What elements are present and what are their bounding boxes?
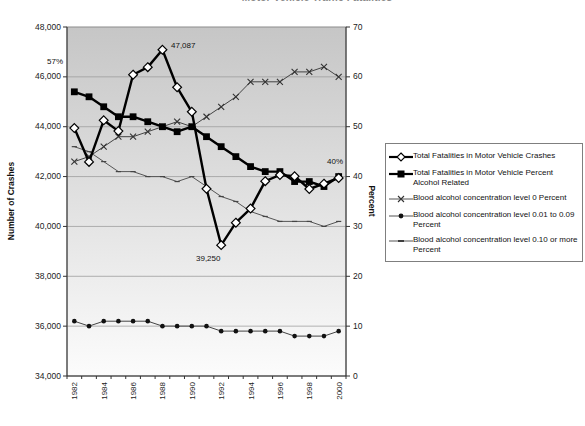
legend: Total Fatalities in Motor Vehicle Crashe… <box>385 143 583 262</box>
legend-item: Blood alcohol concentration level 0.01 t… <box>389 210 578 229</box>
svg-text:36,000: 36,000 <box>35 321 61 331</box>
point-label: 57% <box>47 57 63 66</box>
svg-text:1992: 1992 <box>217 381 226 399</box>
svg-text:40,000: 40,000 <box>35 221 61 231</box>
legend-marker-dash-icon <box>389 236 413 246</box>
svg-text:30: 30 <box>353 221 363 231</box>
legend-label: Total Fatalities in Motor Vehicle Crashe… <box>413 151 555 161</box>
legend-label: Total Fatalities in Motor Vehicle Percen… <box>413 168 578 187</box>
clipped-title-text: Motor Vehicle Traffic Fatalities <box>197 0 437 3</box>
svg-text:1994: 1994 <box>247 381 256 399</box>
svg-text:44,000: 44,000 <box>35 121 61 131</box>
legend-item: Total Fatalities in Motor Vehicle Crashe… <box>389 151 578 162</box>
svg-text:40: 40 <box>353 171 363 181</box>
legend-label: Blood alcohol concentration level 0.01 t… <box>413 210 578 229</box>
point-label: 47,087 <box>171 41 196 50</box>
svg-text:0: 0 <box>353 371 358 381</box>
legend-marker-square-icon <box>389 169 413 179</box>
legend-label: Blood alcohol concentration level 0.10 o… <box>413 235 578 254</box>
legend-marker-circle-icon <box>389 211 413 221</box>
plot-area <box>67 27 346 376</box>
svg-text:1996: 1996 <box>276 381 285 399</box>
legend-label: Blood alcohol concentration level 0 Perc… <box>413 193 566 203</box>
clipped-title: Motor Vehicle Traffic Fatalities <box>197 0 437 4</box>
svg-text:20: 20 <box>353 271 363 281</box>
chart-canvas: Motor Vehicle Traffic Fatalities 48,0004… <box>0 0 585 426</box>
legend-item: Total Fatalities in Motor Vehicle Percen… <box>389 168 578 187</box>
svg-text:34,000: 34,000 <box>35 371 61 381</box>
svg-text:48,000: 48,000 <box>35 22 61 32</box>
svg-text:42,000: 42,000 <box>35 171 61 181</box>
svg-text:1984: 1984 <box>100 381 109 399</box>
point-label: 40% <box>327 157 343 166</box>
svg-text:50: 50 <box>353 121 363 131</box>
svg-text:70: 70 <box>353 22 363 32</box>
point-label: 39,250 <box>196 254 221 263</box>
svg-text:1986: 1986 <box>129 381 138 399</box>
svg-text:1998: 1998 <box>305 381 314 399</box>
svg-text:1982: 1982 <box>70 381 79 399</box>
svg-text:60: 60 <box>353 71 363 81</box>
legend-marker-x-icon <box>389 194 413 204</box>
legend-marker-diamond-icon <box>389 152 413 162</box>
svg-text:1988: 1988 <box>158 381 167 399</box>
legend-item: Blood alcohol concentration level 0.10 o… <box>389 235 578 254</box>
right-axis-title: Percent <box>367 185 377 216</box>
svg-text:1990: 1990 <box>188 381 197 399</box>
left-axis-title: Number of Crashes <box>6 162 16 241</box>
svg-text:46,000: 46,000 <box>35 71 61 81</box>
svg-text:38,000: 38,000 <box>35 271 61 281</box>
svg-text:2000: 2000 <box>335 381 344 399</box>
svg-text:10: 10 <box>353 321 363 331</box>
legend-item: Blood alcohol concentration level 0 Perc… <box>389 193 578 204</box>
